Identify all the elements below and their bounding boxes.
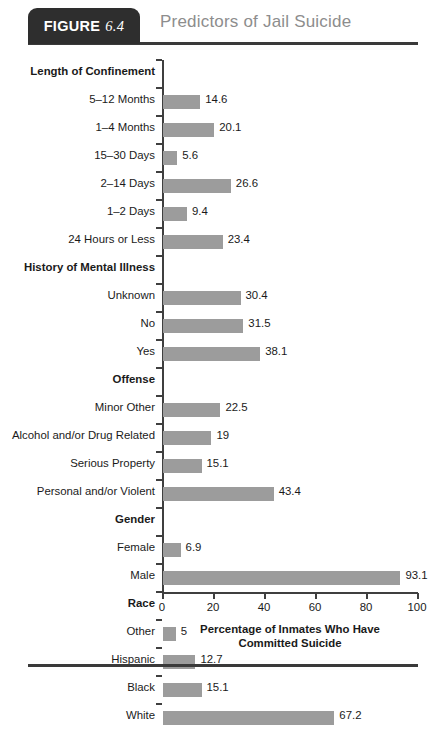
group-label: Race [0, 597, 155, 609]
bar-row: 15–30 Days5.6 [0, 144, 445, 172]
bar-value-label: 23.4 [228, 233, 250, 245]
x-axis-tick-label: 0 [159, 601, 165, 613]
y-axis-tick [156, 507, 162, 509]
bar-value-label: 93.1 [405, 569, 427, 581]
footer-rule [28, 664, 418, 667]
y-axis-tick [156, 199, 162, 201]
figure-tag-word: FIGURE [44, 18, 101, 34]
y-axis-tick [156, 423, 162, 425]
bar-value-label: 15.1 [207, 681, 229, 693]
bar-value-label: 26.6 [236, 177, 258, 189]
y-axis-tick [156, 619, 162, 621]
bar-row: 1–2 Days9.4 [0, 200, 445, 228]
y-axis-tick [156, 171, 162, 173]
y-axis-tick [156, 367, 162, 369]
bar [163, 291, 241, 305]
bar-row: 1–4 Months20.1 [0, 116, 445, 144]
category-label: 1–4 Months [0, 121, 155, 133]
y-axis-tick [156, 339, 162, 341]
category-label: 1–2 Days [0, 205, 155, 217]
category-label: Male [0, 569, 155, 581]
bar [163, 683, 202, 697]
bar [163, 711, 334, 725]
bar-value-label: 6.9 [186, 541, 202, 553]
plot-area: Length of Confinement5–12 Months14.61–4 … [0, 56, 445, 596]
category-label: Minor Other [0, 401, 155, 413]
bar-row: Hispanic12.7 [0, 648, 445, 676]
bar [163, 431, 211, 445]
bar-row: No31.5 [0, 312, 445, 340]
bar-row: 2–14 Days26.6 [0, 172, 445, 200]
bar-group-header: Race [0, 592, 445, 620]
x-axis-title-line1: Percentage of Inmates Who Have [162, 622, 418, 636]
bar-group-header: Offense [0, 368, 445, 396]
bar [163, 151, 177, 165]
bar [163, 459, 202, 473]
bar [163, 123, 214, 137]
bar [163, 571, 400, 585]
bar [163, 95, 200, 109]
x-axis-tick [264, 593, 266, 599]
category-label: Serious Property [0, 457, 155, 469]
y-axis-tick [156, 311, 162, 313]
figure-header: FIGURE 6.4 Predictors of Jail Suicide [0, 0, 445, 52]
bar [163, 487, 274, 501]
bar-value-label: 38.1 [265, 345, 287, 357]
bar-value-label: 20.1 [219, 121, 241, 133]
bar-value-label: 30.4 [246, 289, 268, 301]
x-axis-tick [162, 593, 164, 599]
x-axis-title: Percentage of Inmates Who Have Committed… [162, 622, 418, 650]
x-axis-tick [366, 593, 368, 599]
bar-value-label: 15.1 [207, 457, 229, 469]
bar-value-label: 5.6 [182, 149, 198, 161]
category-label: 24 Hours or Less [0, 233, 155, 245]
x-axis-tick [417, 593, 419, 599]
bar-value-label: 9.4 [192, 205, 208, 217]
bar-row: 5–12 Months14.6 [0, 88, 445, 116]
category-label: No [0, 317, 155, 329]
y-axis-tick [156, 283, 162, 285]
bar-value-label: 31.5 [248, 317, 270, 329]
y-axis-tick [156, 87, 162, 89]
category-label: White [0, 709, 155, 721]
category-label: Black [0, 681, 155, 693]
category-label: Other [0, 625, 155, 637]
y-axis-tick [156, 535, 162, 537]
y-axis-tick [156, 227, 162, 229]
x-axis-tick-label: 60 [309, 601, 322, 613]
bar-row: Black15.1 [0, 676, 445, 704]
group-label: History of Mental Illness [0, 261, 155, 273]
bar [163, 319, 243, 333]
y-axis-tick [156, 59, 162, 61]
bar-row: White67.2 [0, 704, 445, 729]
x-axis-tick [315, 593, 317, 599]
category-label: 15–30 Days [0, 149, 155, 161]
bar-group-header: Length of Confinement [0, 60, 445, 88]
bar-value-label: 19 [216, 429, 229, 441]
y-axis-tick [156, 255, 162, 257]
bar-row: Serious Property15.1 [0, 452, 445, 480]
figure-title: Predictors of Jail Suicide [160, 12, 351, 32]
bar [163, 207, 187, 221]
bar-row: Male93.1 [0, 564, 445, 592]
bar [163, 235, 223, 249]
category-label: 2–14 Days [0, 177, 155, 189]
y-axis-tick [156, 703, 162, 705]
bar-group-header: History of Mental Illness [0, 256, 445, 284]
x-axis-title-line2: Committed Suicide [162, 636, 418, 650]
bar-group-header: Gender [0, 508, 445, 536]
y-axis-tick [156, 395, 162, 397]
category-label: 5–12 Months [0, 93, 155, 105]
bar [163, 347, 260, 361]
y-axis-tick [156, 563, 162, 565]
bar [163, 179, 231, 193]
category-label: Unknown [0, 289, 155, 301]
group-label: Offense [0, 373, 155, 385]
bar-row: Female6.9 [0, 536, 445, 564]
x-axis-tick [213, 593, 215, 599]
y-axis-tick [156, 143, 162, 145]
bar-value-label: 22.5 [225, 401, 247, 413]
figure-number-tag: FIGURE 6.4 [28, 8, 140, 44]
x-axis-tick-label: 20 [207, 601, 220, 613]
y-axis-tick [156, 451, 162, 453]
